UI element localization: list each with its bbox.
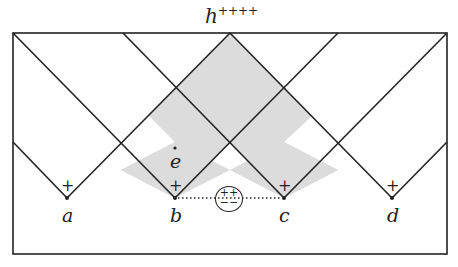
- label-b: b: [170, 206, 182, 225]
- plus-a: +: [61, 178, 74, 194]
- plus-c: +: [278, 178, 291, 194]
- plus-b: +: [169, 178, 182, 194]
- label-c: c: [279, 206, 290, 225]
- diagram-canvas: [0, 0, 458, 267]
- label-d: d: [387, 206, 399, 225]
- plus-d: +: [386, 178, 399, 194]
- label-a: a: [62, 206, 73, 225]
- title-h: h++++: [205, 4, 258, 28]
- label-e: e: [170, 152, 181, 171]
- charge-circle: ++ −−: [215, 186, 243, 212]
- shaded-fill: [121, 33, 338, 198]
